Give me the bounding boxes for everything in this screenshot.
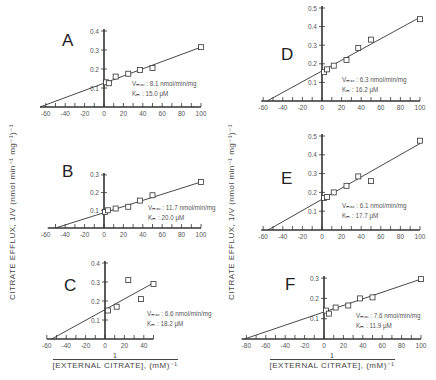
panel-label: E (281, 169, 292, 188)
data-point (370, 295, 375, 300)
x-tick-label: -20 (80, 110, 90, 117)
data-point (418, 17, 423, 22)
x-axis-label-left: 1 [EXTERNAL CITRATE], (mM)⁻¹ (45, 352, 185, 370)
vmax-annotation: Vₘₐₓ : 8.1 nmol/min/mg (132, 80, 197, 88)
data-point (105, 308, 110, 313)
x-tick-label: 20 (121, 342, 129, 349)
x-axis-label-right: 1 [EXTERNAL CITRATE], (mM)⁻¹ (262, 352, 402, 370)
data-point (344, 183, 349, 188)
data-point (126, 278, 131, 283)
data-point (151, 281, 156, 286)
x-tick-label: 80 (178, 110, 186, 117)
y-tick-label: 0.3 (310, 275, 319, 282)
x-tick-label: 0 (103, 342, 107, 349)
km-annotation: Kₘ : 11.9 μM (356, 322, 392, 330)
x-tick-label: 40 (139, 231, 147, 238)
x-tick-label: 0 (322, 342, 326, 349)
y-tick-label: 0.2 (91, 298, 100, 305)
data-point (331, 63, 336, 68)
data-point (105, 208, 110, 213)
y-tick-label: 0.2 (90, 66, 99, 73)
panel-label: F (285, 275, 295, 294)
y-tick-label: 0.4 (91, 260, 100, 267)
data-point (357, 296, 362, 301)
x-axis-label-denominator: [EXTERNAL CITRATE], (mM)⁻¹ (53, 359, 178, 370)
x-tick-label: -20 (81, 342, 91, 349)
x-tick-label: 100 (196, 110, 207, 117)
x-tick-label: 60 (159, 231, 167, 238)
km-annotation: Kₘ : 16.2 μM (342, 86, 378, 94)
y-tick-label: 0.4 (308, 151, 317, 158)
data-point (137, 67, 142, 72)
y-tick-label: 0.4 (90, 28, 99, 35)
y-tick-label: 0.3 (308, 42, 317, 49)
data-point (106, 81, 111, 86)
x-tick-label: 0 (320, 104, 324, 111)
y-tick-label: 0.3 (90, 171, 99, 178)
x-tick-label: 100 (416, 342, 427, 349)
panel-label: D (281, 45, 293, 64)
y-tick-label: 0.2 (310, 295, 319, 302)
panel-b: 0.10.20.3-60-40-20020406080100BVₘₐₓ : 11… (41, 162, 216, 238)
x-tick-label: 40 (358, 104, 366, 111)
x-tick-label: 0 (102, 110, 106, 117)
data-point (419, 277, 424, 282)
panel-label: B (62, 162, 73, 181)
x-tick-label: 20 (338, 104, 346, 111)
x-tick-label: 60 (377, 104, 385, 111)
x-tick-label: 40 (358, 233, 366, 240)
data-point (199, 45, 204, 50)
x-tick-label: 80 (397, 233, 405, 240)
x-tick-label: -20 (300, 342, 310, 349)
y-axis-label-left: CITRATE EFFLUX, 1/V (nmol min⁻¹ mg⁻¹)⁻¹ (8, 124, 17, 300)
x-axis-label-numerator: 1 (45, 352, 185, 359)
x-tick-label: -20 (298, 233, 308, 240)
x-axis-label-denominator: [EXTERNAL CITRATE], (mM)⁻¹ (270, 359, 395, 370)
x-tick-label: -20 (80, 231, 90, 238)
data-point (138, 297, 143, 302)
x-tick-label: 100 (415, 233, 426, 240)
data-point (326, 311, 331, 316)
y-axis-label-right: CITRATE EFFLUX, 1/V (nmol min⁻¹ mg⁻¹)⁻¹ (227, 124, 236, 300)
panel-label: C (64, 276, 76, 295)
y-tick-label: 0.1 (91, 317, 100, 324)
data-point (346, 303, 351, 308)
data-point (137, 198, 142, 203)
x-tick-label: 60 (377, 233, 385, 240)
x-tick-label: -20 (298, 104, 308, 111)
data-point (356, 174, 361, 179)
x-tick-label: 20 (338, 233, 346, 240)
vmax-annotation: Vₘₐₓ : 7.6 nmol/min/mg (356, 312, 421, 320)
x-tick-label: -80 (242, 342, 252, 349)
x-tick-label: -60 (258, 104, 268, 111)
y-tick-label: 0.5 (308, 5, 317, 12)
data-point (331, 190, 336, 195)
x-tick-label: 40 (139, 110, 147, 117)
panel-f: 0.10.20.3-80-60-40-20020406080100FVₘₐₓ :… (242, 275, 427, 349)
panel-e: 0.10.20.30.40.5-60-40-20020406080100EVₘₐ… (258, 133, 425, 241)
data-point (150, 193, 155, 198)
x-tick-label: -60 (261, 342, 271, 349)
y-tick-label: 0.1 (308, 79, 317, 86)
x-tick-label: 40 (359, 342, 367, 349)
vmax-annotation: Vₘₐₓ : 6.1 nmol/min/mg (342, 202, 407, 210)
x-tick-label: 100 (415, 104, 426, 111)
data-point (369, 179, 374, 184)
fit-line (40, 47, 201, 107)
x-tick-label: -40 (278, 104, 288, 111)
fit-line (244, 279, 421, 339)
data-point (418, 138, 423, 143)
data-point (199, 179, 204, 184)
km-annotation: Kₘ : 15.0 μM (132, 90, 168, 98)
data-point (113, 206, 118, 211)
data-point (324, 67, 329, 72)
panel-c: 0.10.20.30.4-60-40-2002040CVₘₐₓ : 6.6 nm… (42, 260, 212, 350)
x-tick-label: 100 (196, 231, 207, 238)
panel-label: A (62, 31, 74, 50)
data-point (126, 204, 131, 209)
y-tick-label: 0.2 (90, 189, 99, 196)
x-tick-label: 20 (120, 231, 128, 238)
x-tick-label: 20 (340, 342, 348, 349)
data-point (113, 74, 118, 79)
x-tick-label: 60 (379, 342, 387, 349)
